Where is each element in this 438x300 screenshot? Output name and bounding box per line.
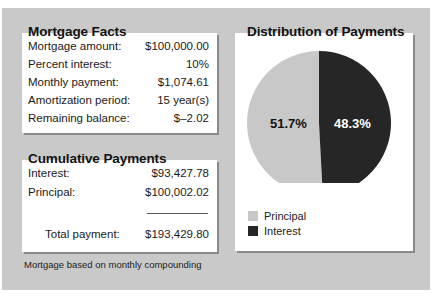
sum-divider (147, 213, 208, 214)
mortgage-facts-title: Mortgage Facts (28, 24, 126, 39)
remaining-balance-row: Remaining balance: $–2.02 (28, 112, 209, 131)
compounding-footnote: Mortgage based on monthly compounding (24, 259, 201, 270)
total-payment-row: Total payment: $193,429.80 (28, 228, 209, 247)
mortgage-facts-panel: Mortgage amount: $100,000.00 Percent int… (22, 33, 217, 133)
legend-label: Interest (264, 225, 301, 237)
legend-interest: Interest (248, 225, 301, 237)
row-value: $93,427.78 (151, 167, 209, 179)
interest-percent-label: 48.3% (334, 116, 371, 131)
row-value: $100,000.00 (145, 40, 209, 52)
row-value: 10% (186, 58, 209, 70)
row-value: $193,429.80 (145, 228, 209, 240)
distribution-panel: 51.7% 48.3% Principal Interest (235, 33, 413, 251)
legend-principal: Principal (248, 210, 306, 222)
row-value: $1,074.61 (158, 76, 209, 88)
percent-interest-row: Percent interest: 10% (28, 58, 209, 77)
row-label: Monthly payment: (28, 76, 119, 88)
row-label: Percent interest: (28, 58, 112, 70)
interest-swatch-icon (248, 226, 258, 236)
mortgage-amount-row: Mortgage amount: $100,000.00 (28, 40, 209, 59)
row-label: Principal: (28, 186, 75, 198)
principal-percent-label: 51.7% (270, 116, 307, 131)
cumulative-payments-panel: Interest: $93,427.78 Principal: $100,002… (22, 160, 217, 252)
row-label: Amortization period: (28, 94, 130, 106)
row-value: $100,002.02 (145, 186, 209, 198)
row-label: Total payment: (45, 228, 120, 240)
cumulative-payments-title: Cumulative Payments (28, 151, 166, 166)
legend-label: Principal (264, 210, 306, 222)
row-value: 15 year(s) (157, 94, 209, 106)
amortization-period-row: Amortization period: 15 year(s) (28, 94, 209, 113)
principal-row: Principal: $100,002.02 (28, 186, 209, 205)
interest-row: Interest: $93,427.78 (28, 167, 209, 186)
row-label: Mortgage amount: (28, 40, 121, 52)
row-label: Remaining balance: (28, 112, 130, 124)
principal-swatch-icon (248, 211, 258, 221)
payment-pie-chart (235, 33, 413, 183)
row-label: Interest: (28, 167, 70, 179)
row-value: $–2.02 (174, 112, 209, 124)
monthly-payment-row: Monthly payment: $1,074.61 (28, 76, 209, 95)
distribution-title: Distribution of Payments (247, 24, 404, 39)
